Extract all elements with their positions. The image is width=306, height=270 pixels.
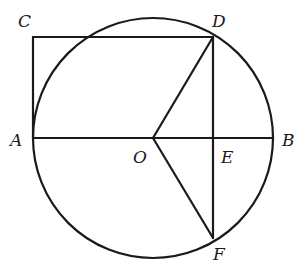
label-e: E <box>220 147 234 167</box>
label-d: D <box>211 11 226 31</box>
radius-of <box>153 138 213 238</box>
label-c: C <box>18 11 31 31</box>
label-o: O <box>133 147 147 167</box>
label-f: F <box>212 244 226 264</box>
label-b: B <box>281 130 295 150</box>
label-a: A <box>8 130 22 150</box>
geometry-diagram: C D A B O E F <box>0 0 306 270</box>
radius-od <box>153 37 213 138</box>
